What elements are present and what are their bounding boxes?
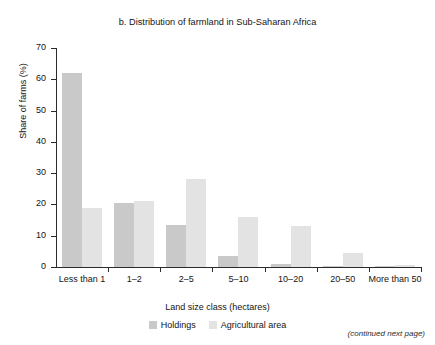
chart-title: b. Distribution of farmland in Sub-Sahar… [0, 17, 435, 27]
legend-item: Holdings [149, 320, 196, 330]
bar-agricultural-area [395, 265, 415, 268]
y-axis-tick-label: 30 [6, 167, 46, 177]
bar-agricultural-area [82, 208, 102, 267]
y-axis-tick-label: 70 [6, 42, 46, 52]
bar-holdings [323, 266, 343, 267]
y-axis-tick [51, 267, 56, 268]
bar-agricultural-area [291, 226, 311, 267]
legend-label: Holdings [161, 320, 196, 330]
y-axis-title: Share of farms (%) [18, 31, 28, 171]
bar-group [265, 48, 317, 267]
x-axis-tick [265, 267, 266, 272]
legend-swatch-icon [209, 321, 217, 329]
bar-agricultural-area [238, 217, 258, 267]
y-axis-tick-label: 0 [6, 261, 46, 271]
plot-area [56, 48, 421, 267]
y-axis-tick-label: 50 [6, 105, 46, 115]
bar-group [56, 48, 108, 267]
bar-holdings [62, 73, 82, 267]
bar-agricultural-area [343, 253, 363, 267]
bar-holdings [375, 266, 395, 267]
legend-swatch-icon [149, 321, 157, 329]
x-axis-tick [421, 267, 422, 272]
bar-agricultural-area [134, 201, 154, 267]
y-axis-tick-label: 20 [6, 198, 46, 208]
bar-group [369, 48, 421, 267]
legend-item: Agricultural area [209, 320, 287, 330]
y-axis-tick-label: 10 [6, 230, 46, 240]
x-axis-tick [108, 267, 109, 272]
y-axis-tick-label: 60 [6, 73, 46, 83]
bar-group [108, 48, 160, 267]
x-axis-tick [317, 267, 318, 272]
y-axis-tick-label: 40 [6, 136, 46, 146]
x-axis-tick [160, 267, 161, 272]
bar-group [160, 48, 212, 267]
x-axis-tick-label: More than 50 [363, 274, 427, 285]
bar-holdings [218, 256, 238, 267]
bar-group [317, 48, 369, 267]
x-axis-line [56, 267, 422, 268]
bar-agricultural-area [186, 179, 206, 267]
bar-holdings [114, 203, 134, 267]
footnote-continued-next-page: (continued next page) [348, 329, 425, 338]
bar-holdings [271, 264, 291, 267]
figure-container: b. Distribution of farmland in Sub-Sahar… [0, 0, 435, 345]
x-axis-tick [369, 267, 370, 272]
bar-holdings [166, 225, 186, 267]
bar-group [212, 48, 264, 267]
legend-label: Agricultural area [221, 320, 287, 330]
x-axis-title: Land size class (hectares) [0, 302, 435, 312]
x-axis-tick [212, 267, 213, 272]
